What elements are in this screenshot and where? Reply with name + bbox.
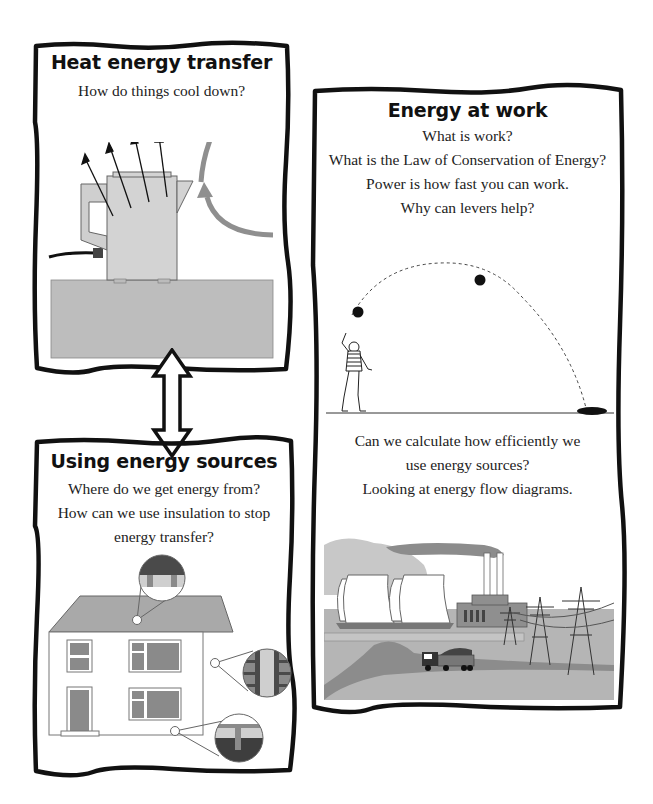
- house-roof: [49, 596, 233, 632]
- box-heat-energy-transfer: Heat energy transfer How do things cool …: [33, 42, 290, 372]
- projectile-illustration: [320, 245, 620, 420]
- box-question: Why can levers help?: [310, 199, 625, 217]
- plug: [93, 248, 103, 258]
- box-question: What is work?: [310, 127, 625, 145]
- box-using-energy-sources: Using energy sources Where do we get ene…: [33, 436, 295, 776]
- box-question: How can we use insulation to stop: [33, 504, 295, 522]
- power-station-building: [457, 603, 527, 627]
- kettle-illustration: [47, 142, 277, 362]
- box-title: Energy at work: [310, 99, 625, 121]
- box-question: What is the Law of Conservation of Energ…: [310, 151, 625, 169]
- cooling-towers: [337, 575, 450, 623]
- arrowhead: [197, 182, 213, 198]
- box-title: Using energy sources: [33, 450, 295, 472]
- power-cable: [49, 253, 95, 257]
- box-question: Can we calculate how efficiently we: [310, 432, 625, 450]
- box-question: Looking at energy flow diagrams.: [310, 480, 625, 498]
- boy-throwing-figure: [342, 333, 372, 411]
- box-question: use energy sources?: [310, 456, 625, 474]
- kettle-foot: [158, 279, 170, 283]
- box-title: Heat energy transfer: [33, 51, 290, 73]
- box-energy-at-work: Energy at work What is work? What is the…: [310, 85, 625, 712]
- house-insulation-illustration: [33, 548, 295, 768]
- box-question: energy transfer?: [33, 528, 295, 546]
- ball-icon: [353, 307, 364, 318]
- kettle-handle: [81, 184, 107, 250]
- box-question: How do things cool down?: [33, 82, 290, 100]
- box-question: Where do we get energy from?: [33, 480, 295, 498]
- floor-insulation-callout: [213, 712, 265, 764]
- ball-trajectory: [352, 263, 586, 408]
- ball-icon: [475, 275, 486, 286]
- power-station-illustration: [324, 525, 614, 700]
- counter-top: [51, 280, 273, 358]
- door-step: [61, 731, 99, 736]
- kettle-foot: [114, 279, 126, 283]
- cavity-wall-insulation-callout: [241, 648, 293, 700]
- box-question: Power is how fast you can work.: [310, 175, 625, 193]
- ball-landed-icon: [577, 407, 607, 415]
- kettle-spout: [177, 181, 193, 213]
- convection-arrows-icon: [201, 142, 273, 235]
